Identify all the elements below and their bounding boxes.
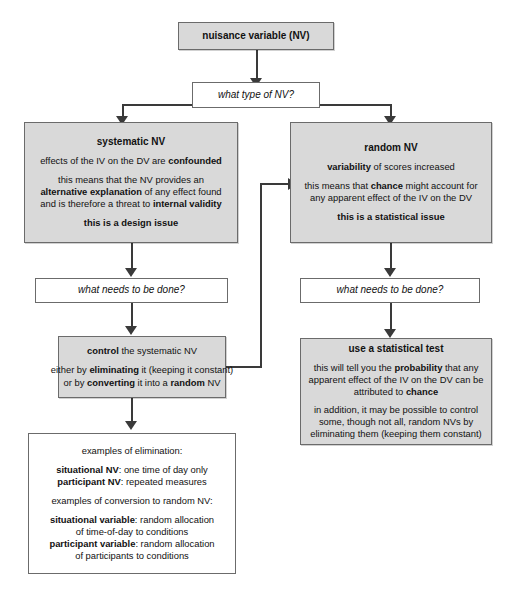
node-question-what-needs-done-right[interactable]: what needs to be done? — [300, 278, 480, 303]
node-question-type-of-nv-label: what type of NV? — [218, 89, 294, 102]
connector-control-feedback-h2 — [260, 183, 290, 185]
text-fragment: attributed to — [354, 386, 406, 397]
text-fragment: the systematic NV — [119, 345, 197, 356]
connector-qleft-to-control — [131, 303, 133, 328]
text-emphasis: situational NV — [56, 464, 119, 475]
text-fragment: of scores increased — [371, 161, 455, 172]
connector-qright-to-statistical — [390, 303, 392, 331]
node-question-what-needs-done-left[interactable]: what needs to be done? — [35, 278, 228, 303]
flowchart-canvas: nuisance variable (NV) what type of NV? … — [0, 0, 516, 595]
node-examples-line4: examples of conversion to random NV: — [51, 495, 212, 507]
text-fragment: : random allocation — [135, 538, 214, 549]
connector-systematic-to-qleft — [131, 243, 133, 270]
text-fragment: it (keeping it constant) — [139, 364, 233, 375]
node-random-nv[interactable]: random NV variability of scores increase… — [290, 122, 492, 243]
node-systematic-nv-line3: alternative explanation of any effect fo… — [40, 186, 221, 198]
node-control-line1: control the systematic NV — [87, 345, 197, 357]
node-random-nv-heading: random NV — [364, 142, 417, 155]
text-fragment: effects of the IV on the DV are — [40, 155, 168, 166]
text-fragment: might account for — [403, 180, 478, 191]
text-fragment: either by — [51, 364, 90, 375]
node-systematic-nv-line4: and is therefore a threat to internal va… — [40, 198, 221, 210]
node-nuisance-variable-label: nuisance variable (NV) — [202, 30, 309, 43]
text-fragment: this will tell you the — [314, 362, 395, 373]
node-systematic-nv-line1: effects of the IV on the DV are confound… — [40, 155, 222, 167]
node-examples[interactable]: examples of elimination: situational NV:… — [28, 433, 236, 574]
text-emphasis: chance — [406, 386, 438, 397]
text-fragment: that any — [442, 362, 478, 373]
node-random-nv-line2: this means that chance might account for — [304, 180, 477, 192]
text-emphasis: internal validity — [153, 198, 222, 209]
node-statistical-line5: some, though not all, random NVs by — [319, 416, 473, 428]
node-systematic-nv[interactable]: systematic NV effects of the IV on the D… — [24, 122, 238, 243]
arrowhead-random-to-qright — [384, 268, 396, 277]
connector-question-right-h — [320, 104, 392, 106]
node-control-systematic-nv[interactable]: control the systematic NV either by elim… — [58, 336, 226, 398]
node-question-what-needs-done-left-label: what needs to be done? — [78, 284, 185, 297]
node-control-line2: either by eliminating it (keeping it con… — [51, 364, 233, 376]
arrowhead-qright-to-statistical — [384, 329, 396, 338]
text-fragment: : repeated measures — [121, 476, 207, 487]
node-examples-line8: of participants to conditions — [75, 550, 189, 562]
node-statistical-line4: in addition, it may be possible to contr… — [314, 404, 478, 416]
text-emphasis: control — [87, 345, 119, 356]
node-use-statistical-test[interactable]: use a statistical test this will tell yo… — [300, 338, 492, 445]
node-question-type-of-nv[interactable]: what type of NV? — [192, 82, 320, 108]
node-systematic-nv-heading: systematic NV — [97, 136, 165, 149]
node-systematic-nv-line5: this is a design issue — [84, 217, 178, 229]
arrowhead-systematic-to-qleft — [125, 268, 137, 277]
text-emphasis: probability — [394, 362, 442, 373]
node-statistical-heading: use a statistical test — [348, 343, 443, 356]
text-emphasis: random — [170, 377, 204, 388]
node-examples-line5: situational variable: random allocation — [50, 514, 214, 526]
node-systematic-nv-line2: this means that the NV provides an — [58, 174, 204, 186]
node-random-nv-line4: this is a statistical issue — [337, 211, 444, 223]
text-emphasis: variability — [327, 161, 371, 172]
arrowhead-qleft-to-control — [125, 326, 137, 335]
connector-random-to-qright — [390, 243, 392, 270]
text-emphasis: situational variable — [50, 514, 135, 525]
text-fragment: it into a — [135, 377, 170, 388]
node-statistical-line1: this will tell you the probability that … — [314, 362, 479, 374]
text-emphasis: confounded — [168, 155, 222, 166]
node-statistical-line3: attributed to chance — [354, 386, 438, 398]
connector-control-feedback-v — [260, 183, 262, 368]
node-examples-line1: examples of elimination: — [82, 445, 183, 457]
text-fragment: or by — [64, 377, 87, 388]
node-question-what-needs-done-right-label: what needs to be done? — [337, 284, 444, 297]
connector-question-left-h — [122, 104, 192, 106]
node-statistical-line6: eliminating them (keeping them constant) — [310, 428, 481, 440]
arrowhead-control-to-examples — [125, 421, 137, 430]
text-emphasis: converting — [87, 377, 135, 388]
text-fragment: : random allocation — [135, 514, 214, 525]
text-emphasis: eliminating — [89, 364, 138, 375]
text-fragment: and is therefore a threat to — [40, 198, 153, 209]
text-emphasis: participant variable — [49, 538, 135, 549]
text-fragment: this means that — [304, 180, 370, 191]
node-random-nv-line1: variability of scores increased — [327, 161, 455, 173]
text-emphasis: alternative explanation — [40, 186, 142, 197]
text-fragment: of any effect found — [142, 186, 222, 197]
connector-control-to-examples — [131, 398, 133, 422]
node-examples-line3: participant NV: repeated measures — [57, 476, 207, 488]
node-nuisance-variable[interactable]: nuisance variable (NV) — [178, 22, 334, 50]
node-statistical-line2: apparent effect of the IV on the DV can … — [309, 374, 484, 386]
node-examples-line7: participant variable: random allocation — [49, 538, 214, 550]
text-emphasis: chance — [371, 180, 403, 191]
node-examples-line6: of time-of-day to conditions — [76, 526, 189, 538]
text-emphasis: participant NV — [57, 476, 121, 487]
node-control-line3: or by converting it into a random NV — [64, 377, 221, 389]
node-examples-line2: situational NV: one time of day only — [56, 464, 208, 476]
node-random-nv-line3: any apparent effect of the IV on the DV — [310, 192, 472, 204]
text-fragment: : one time of day only — [119, 464, 208, 475]
text-fragment: NV — [205, 377, 221, 388]
